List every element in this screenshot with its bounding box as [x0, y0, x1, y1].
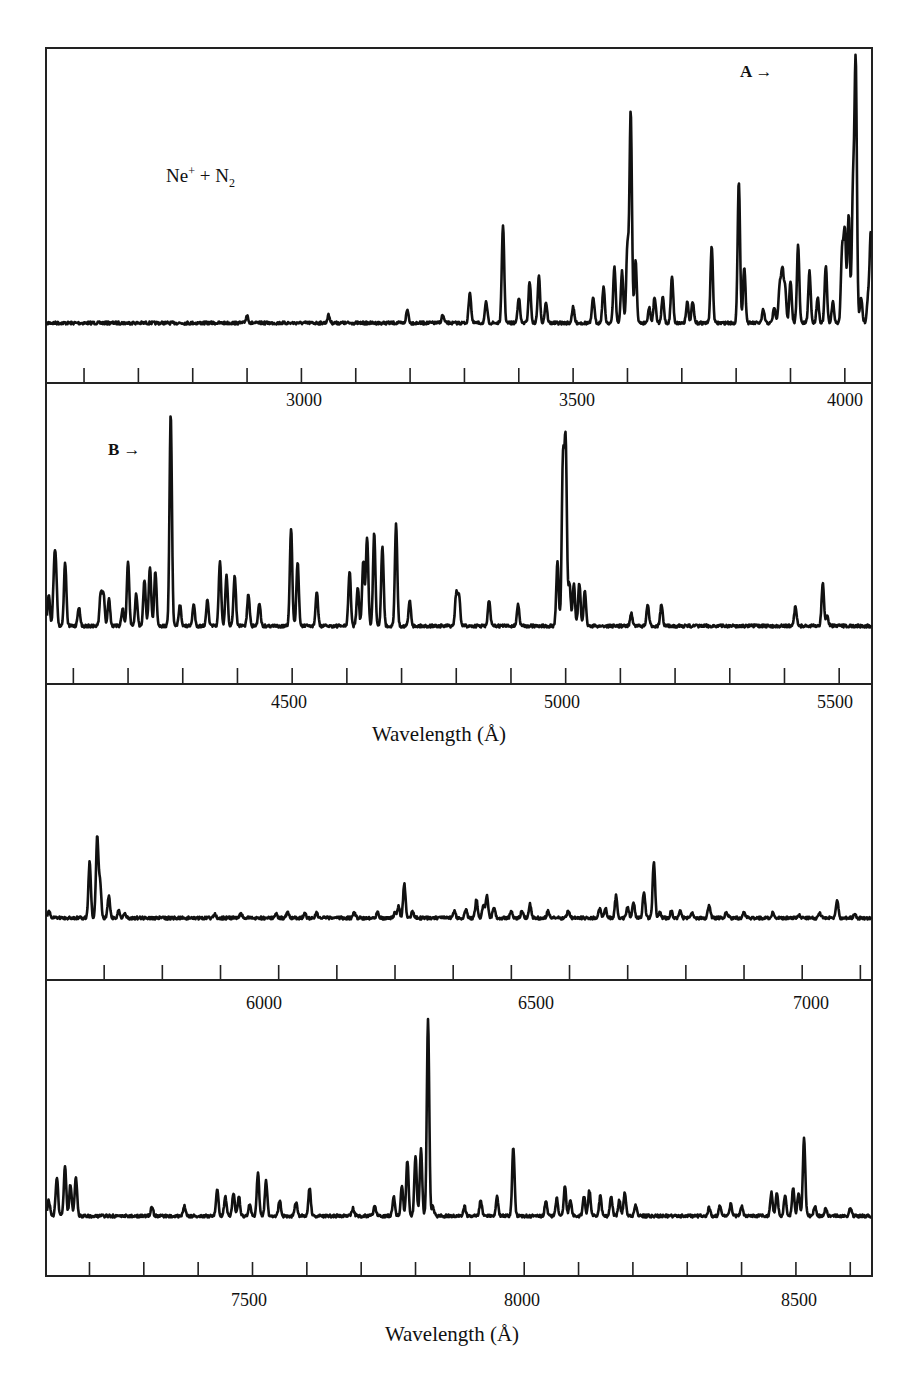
tick-label: 3000 — [286, 390, 322, 411]
species-n: N — [215, 165, 229, 186]
tick-label: 5000 — [544, 692, 580, 713]
arrow-right-icon: → — [756, 62, 773, 81]
spectrum-trace — [47, 1019, 871, 1218]
tick-label: 7500 — [231, 1290, 267, 1311]
marker-b-label: B — [108, 440, 119, 459]
tick-label: 6000 — [246, 993, 282, 1014]
x-axis-label: Wavelength (Å) — [385, 1322, 519, 1347]
x-axis-label: Wavelength (Å) — [372, 722, 506, 747]
tick-label: 4000 — [827, 390, 863, 411]
tick-label: 3500 — [559, 390, 595, 411]
spectrum-figure — [0, 0, 914, 1376]
marker-a-label: A — [740, 62, 751, 81]
spectrum-trace — [47, 837, 871, 920]
figure-frame — [46, 48, 872, 1276]
marker-b: B → — [108, 440, 141, 460]
reaction-label: Ne+ + N2 — [166, 164, 235, 191]
subscript-2: 2 — [229, 176, 235, 190]
charge-superscript: + — [188, 164, 195, 178]
tick-label: 8000 — [504, 1290, 540, 1311]
arrow-right-icon: → — [124, 440, 141, 459]
plus-sign: + — [200, 165, 211, 186]
tick-label: 4500 — [271, 692, 307, 713]
marker-a: A → — [740, 62, 773, 82]
tick-label: 7000 — [793, 993, 829, 1014]
tick-label: 6500 — [518, 993, 554, 1014]
species-ne: Ne — [166, 165, 188, 186]
spectrum-trace — [47, 417, 871, 628]
tick-label: 5500 — [817, 692, 853, 713]
tick-label: 8500 — [781, 1290, 817, 1311]
